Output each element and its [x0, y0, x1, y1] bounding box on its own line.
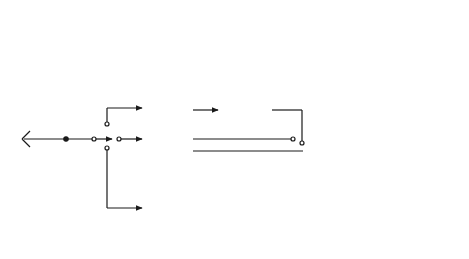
- wiring: [0, 0, 469, 259]
